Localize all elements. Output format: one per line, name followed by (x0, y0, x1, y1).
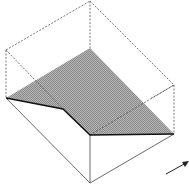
arrow-icon (166, 161, 189, 174)
shaded-plane (6, 48, 174, 135)
box-diagram (0, 0, 189, 184)
